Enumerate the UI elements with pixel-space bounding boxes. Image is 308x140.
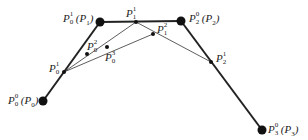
label-p03: P30 [105,52,118,63]
level1-edge-b [136,22,211,62]
point-p01 [62,70,66,74]
control-point-p0 [39,97,48,106]
point-p02 [85,52,89,56]
label-p21: P12 [216,53,229,64]
point-p12 [151,32,155,36]
level1-edge-a [64,22,136,72]
control-point-p2 [177,17,186,26]
control-point-p1 [96,18,105,27]
control-edge-p1-p2 [100,21,181,22]
control-point-p3 [258,126,267,135]
label-p01: P10 [49,63,62,74]
label-p11: P11 [126,8,139,19]
label-p2: P02(P2) [189,13,219,27]
control-edge-p2-p3 [181,21,262,130]
label-p1: P10(P1) [63,13,93,27]
diagram-canvas [0,0,308,140]
label-p0: P00(P0) [8,95,38,109]
label-p02: P20 [87,41,100,52]
de-casteljau-diagram: P00(P0) P10(P1) P02(P2) P03(P3) P10 P11 … [0,0,308,140]
label-p12: P21 [157,24,170,35]
point-p03 [105,45,109,49]
label-p3: P03(P3) [268,124,298,138]
point-p21 [209,60,213,64]
